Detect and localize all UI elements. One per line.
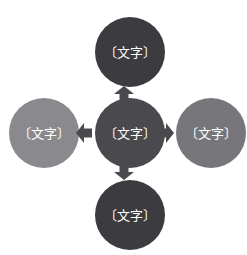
diagram-node-right[interactable]: 〔文字〕 <box>176 98 246 168</box>
arrow-left-icon <box>76 123 92 143</box>
diagram-canvas: 〔文字〕 〔文字〕 〔文字〕 〔文字〕 〔文字〕 <box>0 0 247 255</box>
diagram-node-bottom-label: 〔文字〕 <box>104 209 156 222</box>
diagram-node-center[interactable]: 〔文字〕 <box>95 98 165 168</box>
diagram-node-left[interactable]: 〔文字〕 <box>9 98 79 168</box>
diagram-node-right-label: 〔文字〕 <box>185 127 237 140</box>
diagram-node-bottom[interactable]: 〔文字〕 <box>95 180 165 250</box>
diagram-node-top[interactable]: 〔文字〕 <box>95 17 165 87</box>
arrow-right-icon <box>158 123 174 143</box>
arrow-down-icon <box>114 164 134 180</box>
diagram-node-left-label: 〔文字〕 <box>18 127 70 140</box>
diagram-node-top-label: 〔文字〕 <box>104 46 156 59</box>
arrow-up-icon <box>114 86 134 102</box>
diagram-node-center-label: 〔文字〕 <box>104 127 156 140</box>
